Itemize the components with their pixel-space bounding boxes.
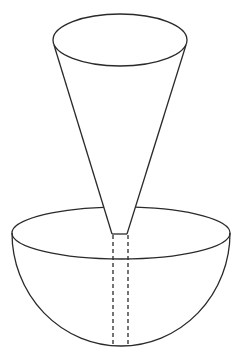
- cone-right-side: [127, 45, 186, 234]
- hemisphere-rim-front: [12, 233, 230, 259]
- cone-left-side: [54, 45, 112, 234]
- cone-top-ellipse: [53, 14, 187, 66]
- hemisphere-bowl: [12, 233, 230, 346]
- cone-hemisphere-diagram: [0, 0, 242, 358]
- hemisphere-rim-back: [12, 207, 230, 233]
